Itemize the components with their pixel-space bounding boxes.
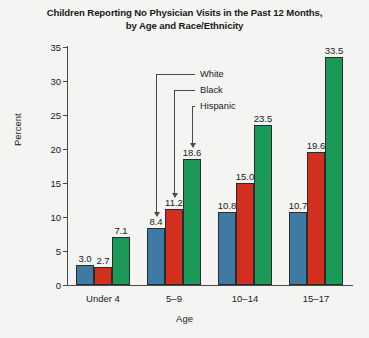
y-tick-label: 15	[50, 178, 61, 189]
callout-arrowhead	[172, 193, 178, 198]
bar-hispanic-2: 23.5	[254, 125, 272, 285]
y-tick-mark	[63, 285, 68, 286]
x-category-label: 5–9	[166, 293, 182, 304]
bar-value-label: 33.5	[325, 45, 344, 56]
y-tick-label: 30	[50, 76, 61, 87]
bar-white-3: 10.7	[289, 212, 307, 285]
bar-hispanic-1: 18.6	[183, 159, 201, 285]
y-tick-label: 10	[50, 212, 61, 223]
callout-line-horizontal	[156, 74, 195, 75]
bar-value-label: 23.5	[254, 113, 273, 124]
legend-label-hispanic: Hispanic	[200, 101, 236, 111]
y-tick-mark	[63, 47, 68, 48]
chart-title-line-2: by Age and Race/Ethnicity	[0, 20, 369, 33]
bar-white-1: 8.4	[147, 228, 165, 285]
plot-area: 05101520253035 3.02.77.18.411.218.610.81…	[68, 47, 352, 285]
chart-title-line-1: Children Reporting No Physician Visits i…	[0, 7, 369, 20]
x-axis-title: Age	[0, 313, 369, 324]
bar-value-label: 10.7	[289, 200, 308, 211]
callout-arrowhead	[190, 143, 196, 148]
bar-value-label: 8.4	[149, 216, 162, 227]
bar-black-3: 19.6	[307, 152, 325, 285]
x-category-label: 10–14	[232, 293, 258, 304]
y-tick-label: 0	[56, 280, 61, 291]
bar-value-label: 3.0	[78, 253, 91, 264]
bar-value-label: 2.7	[96, 255, 109, 266]
y-tick-label: 20	[50, 144, 61, 155]
x-category-label: 15–17	[303, 293, 329, 304]
bar-value-label: 11.2	[165, 197, 183, 208]
y-tick-mark	[63, 217, 68, 218]
bar-value-label: 10.8	[218, 200, 237, 211]
bar-black-1: 11.2	[165, 209, 183, 285]
bar-white-0: 3.0	[76, 265, 94, 285]
y-axis-title: Percent	[12, 113, 23, 146]
legend-label-black: Black	[200, 85, 223, 95]
bar-value-label: 18.6	[183, 147, 202, 158]
bar-white-2: 10.8	[218, 212, 236, 285]
y-tick-label: 25	[50, 110, 61, 121]
y-tick-label: 5	[56, 246, 61, 257]
y-tick-mark	[63, 183, 68, 184]
callout-arrowhead	[154, 212, 160, 217]
bar-black-2: 15.0	[236, 183, 254, 285]
bar-value-label: 7.1	[114, 225, 127, 236]
bar-hispanic-3: 33.5	[325, 57, 343, 285]
x-category-label: Under 4	[86, 293, 120, 304]
callout-line-vertical	[174, 90, 175, 193]
legend-label-white: White	[200, 69, 224, 79]
y-tick-mark	[63, 149, 68, 150]
y-tick-mark	[63, 115, 68, 116]
bar-black-0: 2.7	[94, 267, 112, 285]
x-axis-line	[67, 285, 353, 286]
chart-title: Children Reporting No Physician Visits i…	[0, 7, 369, 32]
y-tick-label: 35	[50, 42, 61, 53]
callout-line-vertical	[192, 106, 193, 143]
chart-figure: Children Reporting No Physician Visits i…	[0, 0, 369, 338]
bar-hispanic-0: 7.1	[112, 237, 130, 285]
callout-line-horizontal	[174, 90, 195, 91]
bar-value-label: 19.6	[307, 140, 326, 151]
y-tick-mark	[63, 81, 68, 82]
y-tick-mark	[63, 251, 68, 252]
bar-value-label: 15.0	[236, 171, 255, 182]
callout-line-vertical	[156, 74, 157, 212]
